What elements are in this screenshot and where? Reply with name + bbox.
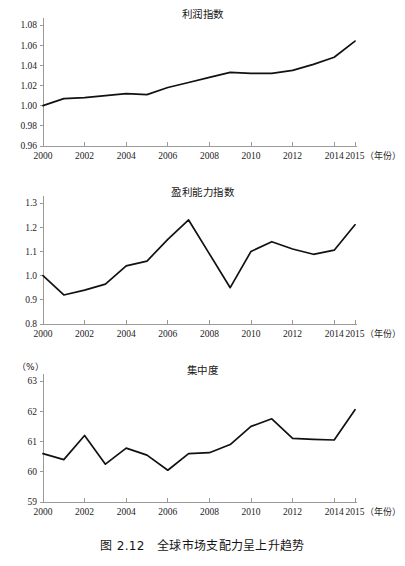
x-tick-label: 2012 [283,151,302,161]
x-tick-label: 2015 [346,507,365,517]
x-tick-label: 2006 [158,329,177,339]
x-tick-label: 2008 [200,151,219,161]
y-tick-label: 1.3 [25,198,37,208]
chart-plot-profitability-index: 0.80.91.01.11.21.32000200220042006200820… [0,178,405,356]
x-tick-label: 2010 [242,329,261,339]
x-tick-label: 2000 [34,151,53,161]
x-tick-label: 2004 [117,507,136,517]
x-tick-label: 2012 [283,329,302,339]
x-tick-label: 2015 [346,329,365,339]
y-tick-label: 63 [28,376,38,386]
x-tick-label: 2008 [200,507,219,517]
y-tick-label: 0.8 [25,319,37,329]
x-tick-label: 2006 [158,151,177,161]
data-series-line [43,220,355,295]
y-tick-label: 1.06 [20,41,37,51]
x-tick-label: 2008 [200,329,219,339]
y-tick-label: 60 [28,467,38,477]
chart-panel-concentration: （%） 集中度 59606162632000200220042006200820… [0,356,405,531]
x-tick-label: 2010 [242,507,261,517]
x-tick-label: 2014 [325,329,344,339]
y-tick-label: 61 [28,437,38,447]
y-tick-label: 1.08 [20,20,37,30]
y-tick-label: 1.04 [20,61,37,71]
figure-caption: 图 2.12 全球市场支配力呈上升趋势 [0,536,405,553]
x-tick-label: 2004 [117,151,136,161]
x-axis-unit-label: （年份） [365,150,401,161]
y-tick-label: 0.98 [20,121,37,131]
x-tick-label: 2012 [283,507,302,517]
x-tick-label: 2000 [34,507,53,517]
y-tick-label: 1.00 [20,101,37,111]
data-series-line [43,41,355,106]
y-tick-label: 0.9 [25,295,37,305]
y-tick-label: 0.96 [20,141,37,151]
chart-panel-profit-index: 利润指数 0.960.981.001.021.041.061.082000200… [0,0,405,178]
y-tick-label: 1.0 [25,271,37,281]
figure-container: 利润指数 0.960.981.001.021.041.061.082000200… [0,0,405,566]
x-tick-label: 2010 [242,151,261,161]
chart-plot-profit-index: 0.960.981.001.021.041.061.08200020022004… [0,0,405,178]
x-tick-label: 2014 [325,507,344,517]
x-tick-label: 2002 [75,151,94,161]
x-axis-unit-label: （年份） [365,328,401,339]
x-tick-label: 2002 [75,329,94,339]
y-tick-label: 59 [28,497,38,507]
x-tick-label: 2002 [75,507,94,517]
x-tick-label: 2015 [346,151,365,161]
y-tick-label: 1.1 [25,247,37,257]
x-tick-label: 2014 [325,151,344,161]
y-tick-label: 1.02 [20,81,37,91]
x-axis-unit-label: （年份） [365,506,401,517]
data-series-line [43,410,355,471]
y-tick-label: 62 [28,407,38,417]
chart-panel-profitability-index: 盈利能力指数 0.80.91.01.11.21.3200020022004200… [0,178,405,356]
x-tick-label: 2000 [34,329,53,339]
y-tick-label: 1.2 [25,223,37,233]
x-tick-label: 2004 [117,329,136,339]
x-tick-label: 2006 [158,507,177,517]
chart-plot-concentration: 5960616263200020022004200620082010201220… [0,356,405,534]
